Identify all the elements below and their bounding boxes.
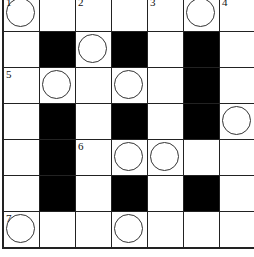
clue-number: 4 [222,0,228,8]
circle-marker-icon [186,0,215,27]
black-cell [184,67,220,103]
grid-cell[interactable] [76,175,112,211]
grid-cell[interactable]: 5 [4,67,40,103]
black-cell [184,31,220,67]
clue-number: 5 [6,69,12,80]
grid-cell[interactable] [4,175,40,211]
grid-cell[interactable] [112,67,148,103]
grid-cell[interactable] [148,139,184,175]
circle-marker-icon [114,142,143,171]
grid-cell[interactable] [220,175,254,211]
grid-cell[interactable] [220,31,254,67]
grid-cell[interactable] [76,67,112,103]
crossword-grid: 1234567 [2,0,254,249]
grid-cell[interactable]: 3 [148,0,184,31]
grid-cell[interactable] [4,31,40,67]
grid-cell[interactable] [220,67,254,103]
circle-marker-icon [150,142,179,171]
grid-cell[interactable]: 7 [4,211,40,247]
black-cell [184,103,220,139]
black-cell [112,103,148,139]
grid-cell[interactable] [220,103,254,139]
clue-number: 7 [6,213,12,224]
circle-marker-icon [42,70,71,99]
grid-cell[interactable] [4,103,40,139]
grid-cell[interactable] [112,139,148,175]
grid-cell[interactable] [184,139,220,175]
grid-cell[interactable] [4,139,40,175]
grid-cell[interactable] [148,103,184,139]
grid-cell[interactable] [184,211,220,247]
black-cell [40,31,76,67]
grid-cell[interactable]: 6 [76,139,112,175]
clue-number: 2 [78,0,84,8]
black-cell [40,103,76,139]
grid-cell[interactable] [184,0,220,31]
clue-number: 3 [150,0,156,8]
clue-number: 6 [78,141,84,152]
grid-cell[interactable] [112,0,148,31]
grid-cell[interactable] [148,175,184,211]
circle-marker-icon [114,70,143,99]
grid-cell[interactable]: 1 [4,0,40,31]
clue-number: 1 [6,0,12,8]
black-cell [40,139,76,175]
grid-cell[interactable] [148,211,184,247]
black-cell [184,175,220,211]
grid-cell[interactable] [220,139,254,175]
grid-cell[interactable]: 4 [220,0,254,31]
circle-marker-icon [78,34,107,63]
grid-cell[interactable] [112,211,148,247]
circle-marker-icon [222,106,251,135]
black-cell [112,31,148,67]
grid-cell[interactable] [40,67,76,103]
grid-cell[interactable] [40,211,76,247]
grid-cell[interactable] [148,67,184,103]
grid-cell[interactable] [76,211,112,247]
black-cell [40,175,76,211]
grid-cell[interactable]: 2 [76,0,112,31]
grid-cell[interactable] [220,211,254,247]
grid-cell[interactable] [76,103,112,139]
circle-marker-icon [114,214,143,243]
grid-cell[interactable] [148,31,184,67]
black-cell [112,175,148,211]
grid-cell[interactable] [40,0,76,31]
grid-cell[interactable] [76,31,112,67]
